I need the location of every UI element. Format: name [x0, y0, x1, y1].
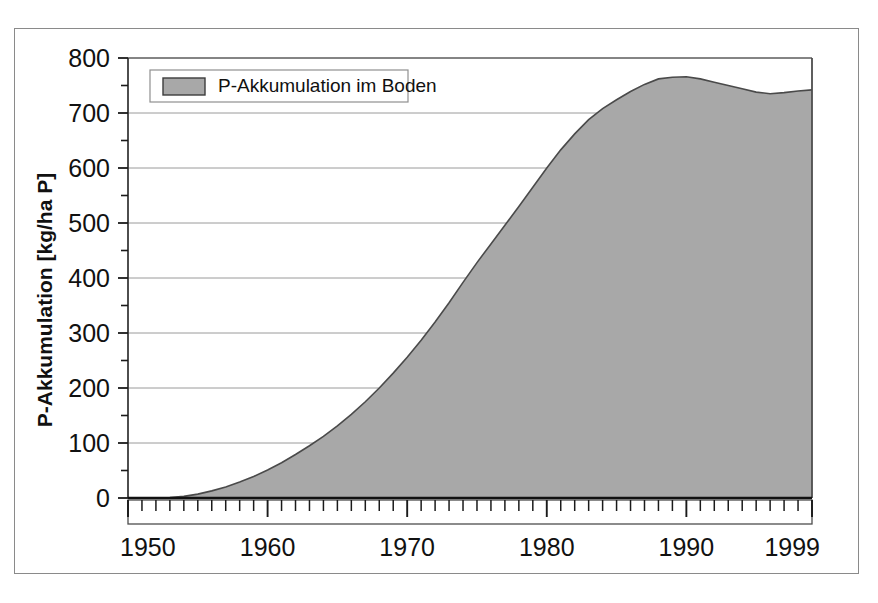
x-tick-label-1970: 1970 — [379, 533, 435, 561]
x-tick-label-1960: 1960 — [240, 533, 296, 561]
y-tick-label-700: 700 — [68, 99, 110, 127]
x-tick-label-1999: 1999 — [764, 533, 820, 561]
y-tick-label-500: 500 — [68, 209, 110, 237]
x-tick-band — [128, 500, 812, 524]
y-tick-label-200: 200 — [68, 374, 110, 402]
figure-container: 0100200300400500600700800 19501960197019… — [0, 0, 878, 603]
x-tick-label-1990: 1990 — [659, 533, 715, 561]
legend-label-0: P-Akkumulation im Boden — [218, 75, 437, 96]
y-tick-label-400: 400 — [68, 264, 110, 292]
x-axis-tick-labels: 195019601970198019901999 — [120, 533, 820, 561]
y-axis-tick-labels: 0100200300400500600700800 — [68, 44, 110, 512]
x-tick-label-1950: 1950 — [120, 533, 176, 561]
y-tick-label-100: 100 — [68, 429, 110, 457]
y-axis-ticks — [118, 58, 128, 498]
legend: P-Akkumulation im Boden — [150, 70, 437, 102]
y-tick-label-800: 800 — [68, 44, 110, 72]
y-tick-label-300: 300 — [68, 319, 110, 347]
area-chart: 0100200300400500600700800 19501960197019… — [0, 0, 878, 603]
y-axis-title: P-Akkumulation [kg/ha P] — [33, 173, 56, 427]
y-tick-label-600: 600 — [68, 154, 110, 182]
y-tick-label-0: 0 — [96, 484, 110, 512]
x-tick-label-1980: 1980 — [519, 533, 575, 561]
legend-swatch-0 — [163, 78, 205, 95]
